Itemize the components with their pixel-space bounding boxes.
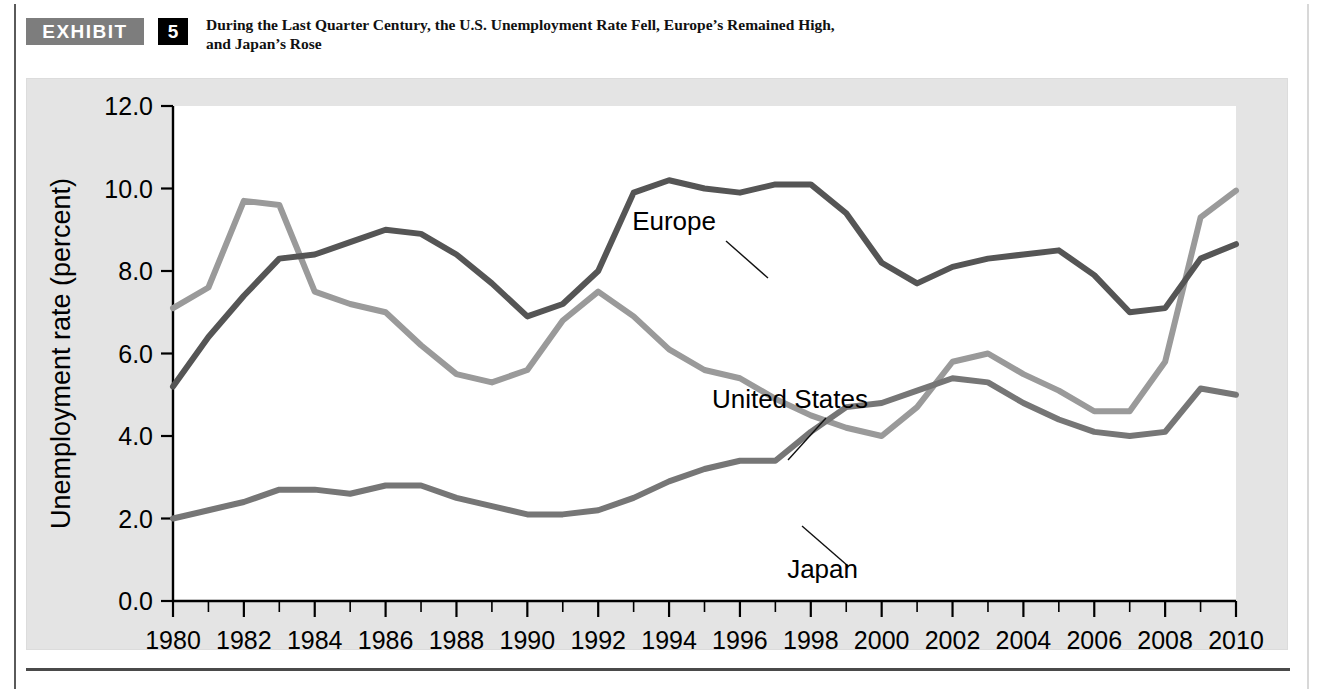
y-axis-title: Unemployment rate (percent) — [46, 178, 76, 529]
page-right-rule — [1307, 4, 1309, 689]
x-tick-label: 1988 — [429, 626, 485, 650]
leader-line-europe — [726, 241, 768, 278]
x-tick-label: 1998 — [783, 626, 839, 650]
exhibit-title-line-2: and Japan’s Rose — [206, 34, 1206, 53]
y-tick-label: 6.0 — [118, 340, 153, 368]
line-chart: 0.02.04.06.08.010.012.019801982198419861… — [26, 78, 1288, 650]
y-tick-label: 4.0 — [118, 422, 153, 450]
annotations: EuropeUnited StatesJapan — [632, 206, 868, 584]
exhibit-page: EXHIBIT 5 During the Last Quarter Centur… — [0, 0, 1320, 699]
panel-bottom-rule — [26, 668, 1290, 671]
page-left-rule — [14, 4, 16, 689]
exhibit-tag-label: EXHIBIT — [26, 18, 144, 45]
y-tick-label: 12.0 — [104, 92, 153, 120]
x-tick-label: 2002 — [925, 626, 981, 650]
y-axis-ticks: 0.02.04.06.08.010.012.0 — [104, 92, 173, 615]
y-tick-label: 8.0 — [118, 257, 153, 285]
y-tick-label: 2.0 — [118, 505, 153, 533]
exhibit-number-badge: 5 — [158, 18, 188, 45]
x-tick-label: 2006 — [1066, 626, 1122, 650]
series-label-europe: Europe — [632, 206, 716, 236]
y-tick-label: 0.0 — [118, 587, 153, 615]
x-tick-label: 1996 — [712, 626, 768, 650]
x-tick-label: 1990 — [500, 626, 556, 650]
y-tick-label: 10.0 — [104, 175, 153, 203]
x-tick-label: 2000 — [854, 626, 910, 650]
chart-panel: 0.02.04.06.08.010.012.019801982198419861… — [26, 78, 1288, 650]
x-tick-label: 1984 — [287, 626, 343, 650]
x-tick-label: 2010 — [1208, 626, 1264, 650]
x-tick-label: 1980 — [145, 626, 201, 650]
series-label-japan: Japan — [787, 554, 858, 584]
x-axis-ticks: 1980198219841986198819901992199419961998… — [145, 601, 1264, 650]
series-label-united-states: United States — [712, 384, 868, 414]
x-tick-label: 1992 — [570, 626, 626, 650]
x-tick-label: 2004 — [996, 626, 1052, 650]
x-tick-label: 1994 — [641, 626, 697, 650]
leader-line-united-states — [788, 418, 826, 460]
exhibit-title-line-1: During the Last Quarter Century, the U.S… — [206, 15, 1206, 34]
exhibit-title: During the Last Quarter Century, the U.S… — [206, 15, 1206, 53]
x-tick-label: 1986 — [358, 626, 414, 650]
axes — [173, 106, 1236, 601]
x-tick-label: 1982 — [216, 626, 272, 650]
exhibit-header: EXHIBIT 5 During the Last Quarter Centur… — [26, 14, 1301, 64]
x-tick-label: 2008 — [1137, 626, 1193, 650]
